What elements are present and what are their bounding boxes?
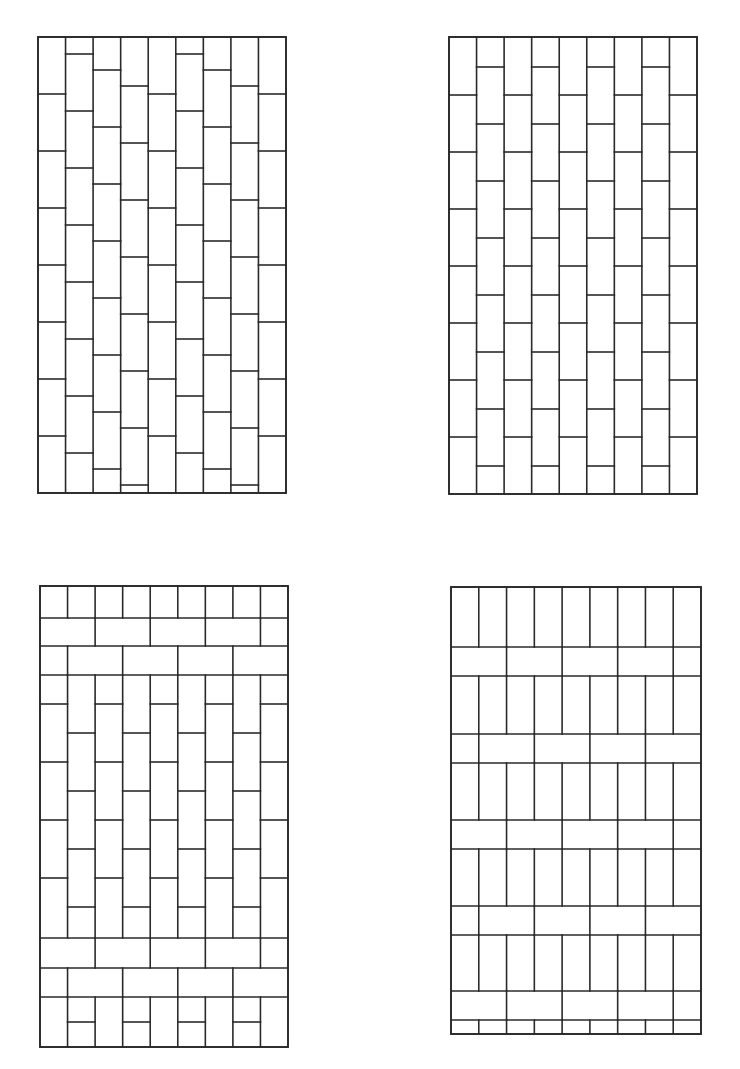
panel-half-bond-vertical (449, 37, 697, 494)
panel-frame (40, 586, 288, 1047)
panel-banded-half-bond (40, 586, 288, 1047)
panel-vertical-with-horizontal-bands (451, 587, 701, 1034)
panel-frame (451, 587, 701, 1034)
panel-stepped-running-bond (38, 37, 286, 493)
diagram-canvas (0, 0, 740, 1069)
